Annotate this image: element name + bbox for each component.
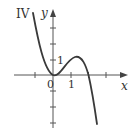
- y-axis-label: y: [41, 7, 48, 19]
- x-tick-label-1: 1: [68, 79, 75, 90]
- x-axis-arrow-icon: [120, 72, 128, 78]
- y-axis-arrow-icon: [50, 9, 56, 17]
- cubic-curve: [33, 13, 97, 124]
- origin-label: 0: [47, 79, 54, 90]
- panel-label: IV: [16, 8, 29, 20]
- y-tick-label-1: 1: [57, 55, 64, 66]
- x-axis-label: x: [121, 80, 128, 92]
